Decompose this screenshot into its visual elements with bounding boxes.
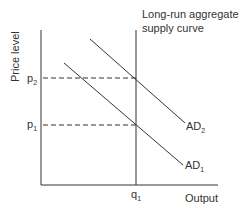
x-axis-label: Output [185,192,218,204]
lras-title-line1: Long-run aggregate [142,8,239,20]
p1-label: p1 [27,118,37,132]
lras-title-line2: supply curve [142,22,204,34]
lras-diagram: Long-run aggregate supply curve Price le… [0,0,251,212]
p2-label: p2 [27,72,37,86]
y-axis-label: Price level [9,31,21,82]
ad2-curve [90,39,185,123]
q1-label: q1 [131,188,141,202]
ad2-label: AD2 [186,120,205,134]
ad1-label: AD1 [185,159,204,173]
